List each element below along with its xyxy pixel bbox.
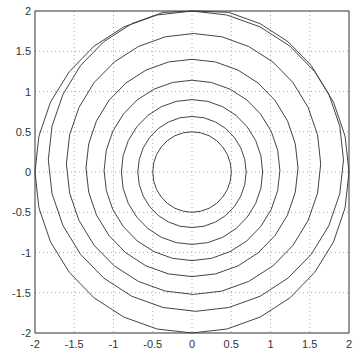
x-tick-label: -1.5	[65, 338, 84, 350]
y-tick-label: 2	[25, 5, 31, 17]
y-tick-labels: 21.510.50-0.5-1-1.5-2	[12, 5, 31, 339]
y-tick-label: 1.5	[16, 45, 31, 57]
x-tick-labels: -2-1.5-1-0.500.511.52	[30, 338, 352, 350]
x-tick-label: 0	[189, 338, 195, 350]
x-tick-label: 1	[267, 338, 273, 350]
y-tick-label: 0.5	[16, 126, 31, 138]
x-tick-label: -0.5	[143, 338, 162, 350]
contour-plot: -2-1.5-1-0.500.511.52 21.510.50-0.5-1-1.…	[0, 0, 360, 364]
y-tick-label: -2	[21, 327, 31, 339]
x-tick-label: 2	[346, 338, 352, 350]
x-tick-label: -1	[109, 338, 119, 350]
y-tick-label: -1	[21, 247, 31, 259]
y-tick-label: -0.5	[12, 206, 31, 218]
x-tick-label: 0.5	[224, 338, 239, 350]
y-tick-label: 0	[25, 166, 31, 178]
y-tick-label: -1.5	[12, 287, 31, 299]
y-tick-label: 1	[25, 86, 31, 98]
x-tick-label: 1.5	[302, 338, 317, 350]
x-tick-label: -2	[30, 338, 40, 350]
